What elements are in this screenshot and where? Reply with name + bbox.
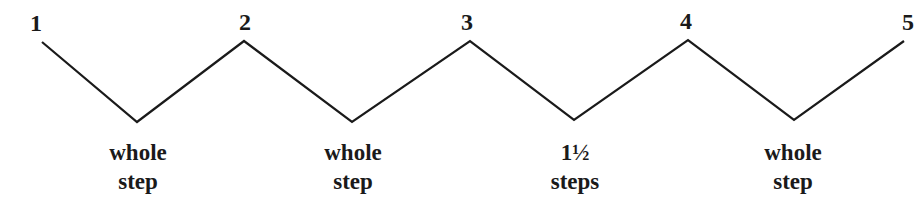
interval-line1: whole (764, 138, 822, 167)
interval-label-3-4: 1½ steps (551, 138, 600, 196)
interval-label-2-3: whole step (324, 138, 382, 196)
interval-label-4-5: whole step (764, 138, 822, 196)
degree-label-3: 3 (461, 10, 473, 34)
interval-line2: step (324, 167, 382, 196)
interval-line2: step (109, 167, 167, 196)
interval-line1: whole (109, 138, 167, 167)
degree-label-1: 1 (30, 11, 42, 35)
degree-label-5: 5 (902, 10, 914, 34)
interval-line2: steps (551, 167, 600, 196)
degree-label-2: 2 (239, 10, 251, 34)
interval-line1: whole (324, 138, 382, 167)
interval-line2: step (764, 167, 822, 196)
degree-label-4: 4 (680, 9, 692, 33)
interval-label-1-2: whole step (109, 138, 167, 196)
interval-line1: 1½ (551, 138, 600, 167)
